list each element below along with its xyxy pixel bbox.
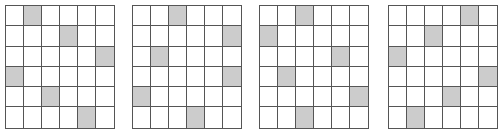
shaded-cell <box>223 26 241 46</box>
grid-cell <box>389 6 407 26</box>
shaded-cell <box>332 47 350 67</box>
grid-cell <box>6 26 24 46</box>
grid-4 <box>388 5 498 129</box>
grid-cell <box>223 87 241 107</box>
grid-cell <box>187 87 205 107</box>
grid-cell <box>78 47 96 67</box>
grid-cell <box>96 67 114 87</box>
shaded-cell <box>96 47 114 67</box>
shaded-cell <box>24 6 42 26</box>
grid-cell <box>169 87 187 107</box>
grid-cell <box>479 87 497 107</box>
shaded-cell <box>260 26 278 46</box>
grid-cell <box>42 47 60 67</box>
shaded-cell <box>60 26 78 46</box>
grid-cell <box>461 107 479 127</box>
grid-cell <box>78 67 96 87</box>
grid-cell <box>169 67 187 87</box>
grid-cell <box>260 6 278 26</box>
grid-cell <box>169 26 187 46</box>
grid-cell <box>60 47 78 67</box>
grid-cell <box>461 67 479 87</box>
grid-cell <box>407 87 425 107</box>
grid-cell <box>60 87 78 107</box>
grid-cell <box>6 107 24 127</box>
grid-cell <box>60 6 78 26</box>
shaded-cell <box>151 47 169 67</box>
grid-cell <box>205 6 223 26</box>
shaded-cell <box>42 87 60 107</box>
grid-cell <box>278 107 296 127</box>
grid-cell <box>278 26 296 46</box>
grid-cell <box>6 6 24 26</box>
grid-cell <box>332 67 350 87</box>
grid-cell <box>260 107 278 127</box>
grid-cell <box>278 6 296 26</box>
grid-cell <box>187 67 205 87</box>
grid-cell <box>425 6 443 26</box>
grid-cell <box>332 87 350 107</box>
grid-cell <box>78 26 96 46</box>
grid-cell <box>314 26 332 46</box>
grid-cell <box>407 26 425 46</box>
grid-cell <box>205 87 223 107</box>
shaded-cell <box>479 67 497 87</box>
grid-cell <box>443 67 461 87</box>
grid-cell <box>260 87 278 107</box>
grid-cell <box>151 67 169 87</box>
shaded-cell <box>278 67 296 87</box>
grid-cell <box>389 26 407 46</box>
grid-cell <box>407 6 425 26</box>
grid-cell <box>24 67 42 87</box>
grid-cell <box>223 107 241 127</box>
grid-cell <box>332 107 350 127</box>
grid-cell <box>332 26 350 46</box>
grid-cell <box>187 47 205 67</box>
grid-cell <box>187 6 205 26</box>
grid-cell <box>151 6 169 26</box>
grid-cell <box>6 87 24 107</box>
grid-cell <box>314 67 332 87</box>
grid-cell <box>296 67 314 87</box>
grid-cell <box>314 47 332 67</box>
grid-cell <box>6 47 24 67</box>
grid-cell <box>407 67 425 87</box>
grid-cell <box>96 87 114 107</box>
grid-cell <box>24 26 42 46</box>
grid-cell <box>461 47 479 67</box>
grid-cell <box>350 107 368 127</box>
shaded-cell <box>389 47 407 67</box>
shaded-cell <box>425 26 443 46</box>
shaded-cell <box>187 107 205 127</box>
grid-cell <box>461 26 479 46</box>
grid-cell <box>60 107 78 127</box>
grid-1 <box>5 5 115 129</box>
grid-cell <box>42 107 60 127</box>
shaded-cell <box>133 87 151 107</box>
grid-cell <box>425 107 443 127</box>
grid-cell <box>407 47 425 67</box>
shaded-cell <box>78 107 96 127</box>
grid-cell <box>133 107 151 127</box>
grid-cell <box>169 47 187 67</box>
grid-cell <box>24 87 42 107</box>
grid-cell <box>479 47 497 67</box>
grid-cell <box>461 87 479 107</box>
grid-cell <box>479 26 497 46</box>
grid-cell <box>223 6 241 26</box>
grid-cell <box>296 26 314 46</box>
grid-cell <box>133 6 151 26</box>
grid-cell <box>425 67 443 87</box>
grid-cell <box>133 26 151 46</box>
grid-cell <box>389 107 407 127</box>
shaded-cell <box>223 67 241 87</box>
grid-cell <box>314 6 332 26</box>
shaded-cell <box>407 107 425 127</box>
grid-cell <box>24 47 42 67</box>
grid-cell <box>425 47 443 67</box>
grid-cell <box>78 6 96 26</box>
grid-cell <box>350 47 368 67</box>
grid-cell <box>350 67 368 87</box>
grid-cell <box>389 67 407 87</box>
grid-cell <box>479 107 497 127</box>
